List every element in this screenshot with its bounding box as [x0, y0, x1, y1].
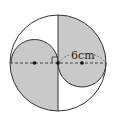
measure-label: 6cm: [71, 50, 95, 61]
big-center-point: [56, 61, 60, 65]
left-center-point: [33, 61, 37, 65]
figure-canvas: [0, 0, 114, 124]
shaded-left-region: [10, 40, 58, 112]
geometry-figure: 6cm: [0, 0, 114, 124]
